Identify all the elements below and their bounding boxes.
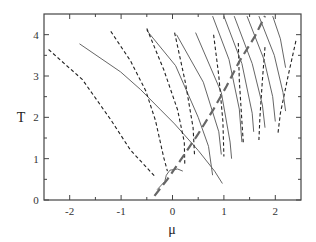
dashed-4-line xyxy=(175,33,195,157)
y-tick-label: 1 xyxy=(33,153,39,165)
x-axis-label: μ xyxy=(168,222,176,237)
y-tick-label: 3 xyxy=(33,70,39,82)
x-tick-label: -1 xyxy=(117,205,126,217)
dashed-3-line xyxy=(147,29,185,165)
x-tick-label: 2 xyxy=(273,205,279,217)
solid-10-line xyxy=(273,16,286,68)
x-tick-label: 1 xyxy=(221,205,227,217)
solid-7-line xyxy=(234,16,265,128)
solid-loop-line xyxy=(157,169,183,190)
curve-group xyxy=(49,16,296,196)
dashed-1-line xyxy=(49,50,155,177)
y-tick-label: 0 xyxy=(33,194,39,206)
dashed-2-line xyxy=(111,31,168,171)
dashed-8-line xyxy=(278,41,296,134)
y-tick-label: 2 xyxy=(33,111,39,123)
wide-dashed-boundary-line xyxy=(155,16,266,196)
solid-1-line xyxy=(80,44,223,184)
solid-8-line xyxy=(247,16,275,121)
y-tick-label: 4 xyxy=(33,29,39,41)
phase-diagram-chart: -2-101201234 μ T xyxy=(0,0,316,242)
x-tick-label: 0 xyxy=(170,205,176,217)
x-tick-label: -2 xyxy=(65,205,74,217)
y-axis-label: T xyxy=(17,110,26,125)
